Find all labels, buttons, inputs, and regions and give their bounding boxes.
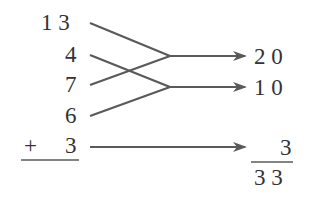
line-13 xyxy=(90,23,170,56)
sum-33: 3 3 xyxy=(254,166,283,189)
addend-3: 3 xyxy=(65,134,77,157)
result-10: 1 0 xyxy=(254,76,283,99)
result-3: 3 xyxy=(280,136,292,159)
addend-6: 6 xyxy=(65,104,77,127)
addend-13: 1 3 xyxy=(41,11,70,34)
addend-7: 7 xyxy=(65,73,77,96)
plus-sign: + xyxy=(24,134,37,157)
line-6 xyxy=(90,87,170,116)
result-20: 2 0 xyxy=(254,45,283,68)
addend-4: 4 xyxy=(65,43,77,66)
